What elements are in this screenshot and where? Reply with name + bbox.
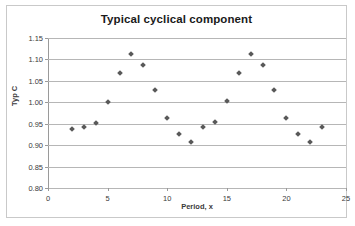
x-tick-label: 10 — [163, 194, 171, 203]
data-point — [236, 70, 242, 76]
y-tick-label: 0.85 — [28, 162, 43, 171]
x-tick-mark — [48, 188, 49, 191]
data-point — [272, 87, 278, 93]
y-tick-mark — [45, 59, 48, 60]
gridline — [48, 38, 346, 39]
y-tick-mark — [45, 124, 48, 125]
data-point — [260, 63, 266, 69]
data-point — [307, 139, 313, 145]
x-tick-label: 20 — [282, 194, 290, 203]
x-tick-label: 0 — [46, 194, 50, 203]
x-tick-mark — [227, 188, 228, 191]
data-point — [284, 115, 290, 121]
y-tick-label: 0.95 — [28, 119, 43, 128]
x-axis-label: Period, x — [48, 202, 346, 211]
y-axis-label: Typ C — [10, 86, 19, 106]
data-point — [164, 115, 170, 121]
y-tick-mark — [45, 81, 48, 82]
data-point — [176, 132, 182, 138]
y-tick-mark — [45, 145, 48, 146]
gridline — [48, 59, 346, 60]
data-point — [105, 99, 111, 105]
data-point — [295, 132, 301, 138]
y-tick-label: 1.00 — [28, 98, 43, 107]
data-point — [141, 63, 147, 69]
plot-area: 0.800.850.900.951.001.051.101.15 0510152… — [48, 38, 346, 188]
x-tick-label: 15 — [223, 194, 231, 203]
data-point — [200, 124, 206, 130]
data-point — [93, 120, 99, 126]
data-point — [152, 87, 158, 93]
x-tick-mark — [286, 188, 287, 191]
gridline — [48, 81, 346, 82]
gridline — [48, 188, 346, 189]
data-point — [188, 139, 194, 145]
x-tick-mark — [108, 188, 109, 191]
data-point — [319, 124, 325, 130]
data-point — [248, 51, 254, 57]
x-tick-mark — [167, 188, 168, 191]
chart-container: Typical cyclical component Typ C Period,… — [6, 5, 347, 218]
x-tick-mark — [346, 188, 347, 191]
y-tick-label: 1.15 — [28, 34, 43, 43]
y-tick-label: 1.05 — [28, 76, 43, 85]
gridline — [48, 145, 346, 146]
chart-title: Typical cyclical component — [7, 13, 346, 25]
y-tick-label: 0.90 — [28, 141, 43, 150]
data-point — [81, 124, 87, 130]
x-tick-label: 25 — [342, 194, 350, 203]
gridline — [48, 167, 346, 168]
x-tick-label: 5 — [106, 194, 110, 203]
y-tick-mark — [45, 38, 48, 39]
data-point — [69, 126, 75, 132]
y-tick-mark — [45, 167, 48, 168]
y-tick-label: 1.10 — [28, 55, 43, 64]
data-point — [129, 51, 135, 57]
data-point — [117, 70, 123, 76]
data-point — [224, 99, 230, 105]
y-tick-label: 0.80 — [28, 184, 43, 193]
gridline — [48, 124, 346, 125]
y-tick-mark — [45, 102, 48, 103]
gridline — [48, 102, 346, 103]
